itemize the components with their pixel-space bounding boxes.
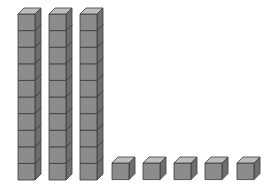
cube-front-face <box>18 147 35 164</box>
base-ten-blocks-diagram <box>0 0 275 190</box>
tens-rod <box>49 8 72 180</box>
ones-cube <box>112 157 135 180</box>
cube-front-face <box>80 80 97 97</box>
ones-cube <box>143 157 166 180</box>
cube-front-face <box>49 31 66 48</box>
cube-front-face <box>18 80 35 97</box>
cube-front-face <box>18 64 35 81</box>
cube-front-face <box>80 31 97 48</box>
cube-front-face <box>49 97 66 114</box>
tens-rods-group <box>18 8 103 180</box>
cube-front-face <box>18 97 35 114</box>
cube-front-face <box>49 14 66 31</box>
cube-front-face <box>49 130 66 147</box>
cube-front-face <box>49 64 66 81</box>
cube-front-face <box>237 163 254 180</box>
ones-cube <box>205 157 228 180</box>
ones-cube <box>174 157 197 180</box>
cube-front-face <box>205 163 222 180</box>
cube-front-face <box>80 163 97 180</box>
cube-front-face <box>18 31 35 48</box>
ones-cubes-group <box>112 157 260 180</box>
cube-front-face <box>80 47 97 64</box>
cube-front-face <box>18 130 35 147</box>
cube-front-face <box>18 163 35 180</box>
cube-front-face <box>49 80 66 97</box>
cube-front-face <box>49 163 66 180</box>
cube-front-face <box>112 163 129 180</box>
tens-rod <box>18 8 41 180</box>
cube-front-face <box>49 47 66 64</box>
rod-unit-cube <box>49 8 72 31</box>
cube-front-face <box>80 14 97 31</box>
cube-front-face <box>18 14 35 31</box>
cube-front-face <box>18 114 35 131</box>
cube-front-face <box>80 97 97 114</box>
cube-front-face <box>80 64 97 81</box>
cube-front-face <box>80 147 97 164</box>
cube-front-face <box>80 130 97 147</box>
cube-front-face <box>49 147 66 164</box>
cube-front-face <box>18 47 35 64</box>
cube-front-face <box>49 114 66 131</box>
tens-rod <box>80 8 103 180</box>
ones-cube <box>237 157 260 180</box>
rod-unit-cube <box>18 8 41 31</box>
cube-front-face <box>143 163 160 180</box>
cube-front-face <box>174 163 191 180</box>
rod-unit-cube <box>80 8 103 31</box>
cube-front-face <box>80 114 97 131</box>
